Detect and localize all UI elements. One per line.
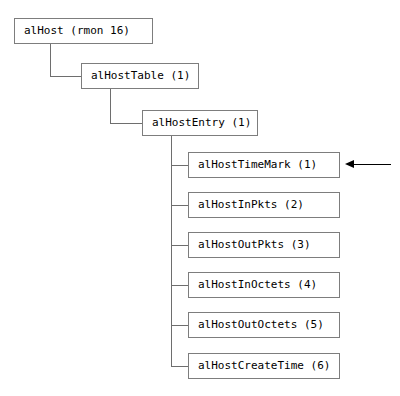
- node-alhostoutpkts[interactable]: alHostOutPkts (3): [188, 232, 340, 258]
- edge-leaf-connector: [171, 165, 189, 166]
- edge-alhosttable-down: [110, 89, 111, 124]
- node-alhosttimemark[interactable]: alHostTimeMark (1): [188, 152, 340, 178]
- edge-leaf-connector: [171, 285, 189, 286]
- node-alhostinoctets[interactable]: alHostInOctets (4): [188, 272, 340, 298]
- edge-leaf-connector: [171, 205, 189, 206]
- annotation-arrow-line: [353, 164, 391, 165]
- edge-leaf-connector: [171, 245, 189, 246]
- edge-leaf-connector: [171, 325, 189, 326]
- node-alhosttable[interactable]: alHostTable (1): [81, 63, 199, 89]
- annotation-arrow-head-icon: [345, 160, 354, 168]
- edge-alhost-down: [50, 44, 51, 77]
- edge-leaf-connector: [171, 366, 189, 367]
- node-alhostoutoctets[interactable]: alHostOutOctets (5): [188, 312, 340, 338]
- node-alhostinpkts[interactable]: alHostInPkts (2): [188, 192, 340, 218]
- edge-alhosttable-right: [110, 123, 143, 124]
- mib-tree-diagram: alHost (rmon 16) alHostTable (1) alHostE…: [0, 0, 400, 396]
- node-alhostentry[interactable]: alHostEntry (1): [142, 110, 258, 136]
- edge-entry-trunk: [171, 136, 172, 367]
- node-alhostcreatetime[interactable]: alHostCreateTime (6): [188, 353, 340, 379]
- node-alhost[interactable]: alHost (rmon 16): [14, 18, 153, 44]
- edge-alhost-right: [50, 76, 82, 77]
